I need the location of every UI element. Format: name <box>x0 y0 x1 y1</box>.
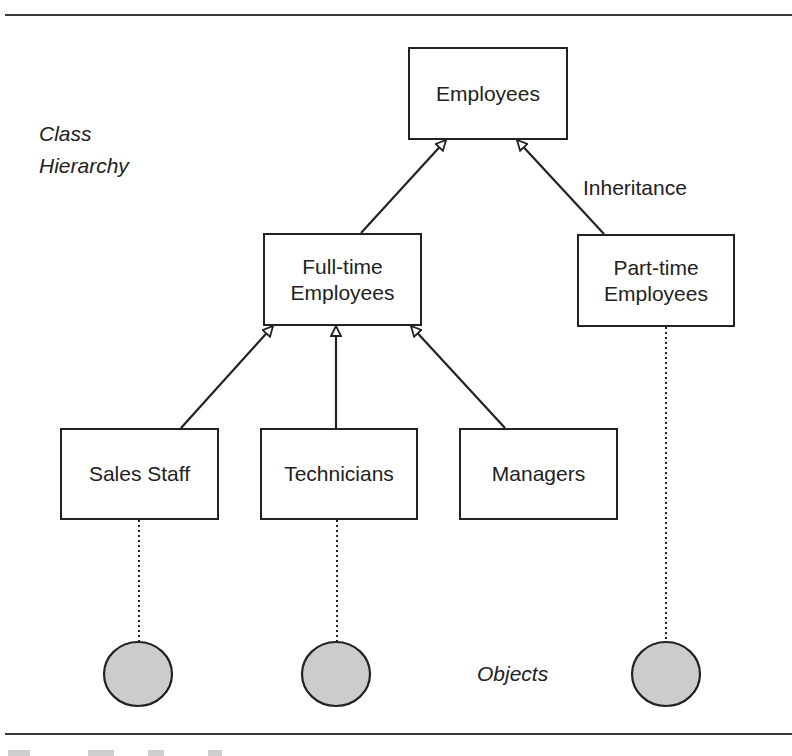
arrow-managers-to-fulltime <box>411 326 505 428</box>
class-name-technicians: Technicians <box>284 461 394 487</box>
object-circle-technicians <box>302 642 370 706</box>
arrow-fulltime-to-employees <box>361 140 446 233</box>
class-box-managers: Managers <box>459 428 618 520</box>
caption-fragment <box>88 750 114 756</box>
class-hierarchy-line-2: Hierarchy <box>39 150 129 182</box>
class-name-part-time-line-1: Part-time <box>613 255 698 281</box>
object-circle-parttime <box>632 642 700 706</box>
class-box-full-time-employees: Full-time Employees <box>263 233 422 326</box>
class-hierarchy-label: Class Hierarchy <box>39 118 129 182</box>
class-name-full-time-line-1: Full-time <box>302 254 383 280</box>
objects-label: Objects <box>477 658 548 690</box>
class-hierarchy-line-1: Class <box>39 118 129 150</box>
arrow-sales-to-fulltime <box>181 326 273 428</box>
class-box-sales-staff: Sales Staff <box>60 428 219 520</box>
class-box-technicians: Technicians <box>260 428 418 520</box>
caption-fragment <box>208 750 222 756</box>
class-box-employees: Employees <box>408 47 568 140</box>
class-name-sales-staff: Sales Staff <box>89 461 190 487</box>
diagram-connectors <box>0 0 792 756</box>
object-circle-sales <box>104 642 172 706</box>
caption-fragment <box>8 750 30 756</box>
class-box-part-time-employees: Part-time Employees <box>577 234 735 327</box>
inheritance-label: Inheritance <box>583 172 687 204</box>
class-name-employees: Employees <box>436 81 540 107</box>
class-name-part-time-line-2: Employees <box>604 281 708 307</box>
caption-fragment <box>148 750 164 756</box>
class-name-full-time-line-2: Employees <box>291 280 395 306</box>
class-name-managers: Managers <box>492 461 585 487</box>
